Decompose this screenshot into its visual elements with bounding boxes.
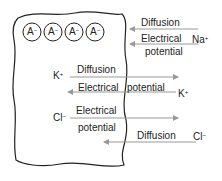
anion-label-4: A− bbox=[90, 26, 100, 37]
cl-ion-outside-label: Cl− bbox=[193, 131, 206, 142]
na-diffusion-label: Diffusion bbox=[141, 17, 180, 28]
na-ion-label: Na+ bbox=[192, 34, 208, 45]
anion-label-2: A− bbox=[48, 26, 58, 37]
k-ion-outside-label: K+ bbox=[178, 88, 188, 99]
cl-electrical-label-2: potential bbox=[78, 122, 116, 133]
k-electrical-label-1: Electrical bbox=[78, 82, 119, 93]
k-electrical-label-2: potential bbox=[127, 82, 165, 93]
na-electrical-label-1: Electrical bbox=[141, 33, 182, 44]
k-diffusion-label: Diffusion bbox=[77, 64, 116, 75]
anion-label-1: A− bbox=[27, 26, 37, 37]
anion-label-3: A− bbox=[69, 26, 79, 37]
cl-ion-inside-label: Cl− bbox=[53, 112, 66, 123]
cl-diffusion-label: Diffusion bbox=[137, 130, 176, 141]
na-electrical-label-2: potential bbox=[145, 46, 183, 57]
cl-electrical-label-1: Electrical bbox=[76, 105, 117, 116]
k-ion-inside-label: K+ bbox=[53, 70, 63, 81]
